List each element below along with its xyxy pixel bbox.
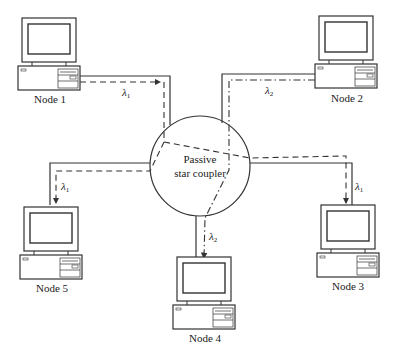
node-label: Node 2 [331, 92, 363, 104]
computer-icon [317, 205, 379, 277]
coupler-label-line2: star coupler [174, 167, 226, 179]
star-coupler-circle [150, 116, 250, 216]
node-label: Node 3 [332, 280, 365, 292]
lambda-node5: λ1 [60, 180, 70, 194]
computer-icon [315, 16, 377, 88]
node-label: Node 5 [36, 282, 69, 294]
coupler-label-line1: Passive [184, 153, 217, 165]
computer-icon [18, 18, 80, 90]
lambda-node1: λ1 [121, 86, 131, 100]
node-1: Node 1 [18, 18, 80, 105]
node-4: Node 4 [173, 257, 235, 344]
lambda-node4: λ2 [208, 230, 218, 244]
lambda-node3: λ1 [354, 180, 364, 194]
computer-icon [20, 207, 82, 279]
node-3: Node 3 [317, 205, 379, 292]
node-label: Node 4 [189, 332, 222, 344]
node-2: Node 2 [315, 16, 377, 104]
computer-icon [173, 257, 235, 329]
lambda-node2: λ2 [264, 84, 274, 98]
star-coupler-diagram: Passive star coupler λ1 λ2 λ1 λ1 λ2 Node… [0, 0, 398, 356]
node-5: Node 5 [20, 207, 82, 294]
node-label: Node 1 [34, 93, 66, 105]
